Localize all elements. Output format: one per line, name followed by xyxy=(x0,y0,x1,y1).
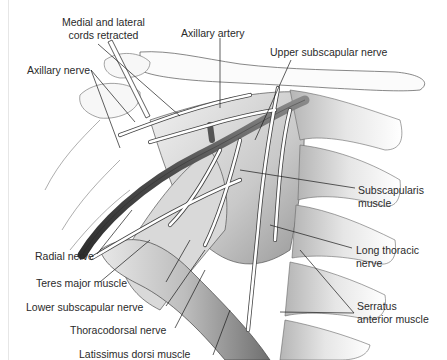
label-lower-subscapular-nerve: Lower subscapular nerve xyxy=(26,301,143,314)
label-upper-subscapular-nerve: Upper subscapular nerve xyxy=(270,46,387,59)
label-long-thoracic-line1: Long thoracic xyxy=(356,244,419,257)
label-axillary-nerve: Axillary nerve xyxy=(27,64,90,77)
label-latissimus-dorsi-muscle: Latissimus dorsi muscle xyxy=(79,348,190,360)
label-axillary-artery: Axillary artery xyxy=(181,27,245,40)
arm-outline xyxy=(45,120,130,250)
label-teres-major-muscle: Teres major muscle xyxy=(36,277,127,290)
label-subscapularis-muscle: Subscapularis muscle xyxy=(358,184,424,209)
label-subscapularis-line1: Subscapularis xyxy=(358,184,424,197)
label-serratus-anterior-muscle: Serratus anterior muscle xyxy=(357,300,429,325)
label-medial-lateral-cords-line1: Medial and lateral xyxy=(62,16,145,29)
label-serratus-line2: anterior muscle xyxy=(357,313,429,326)
artery-branch xyxy=(210,125,212,140)
humeral-head xyxy=(80,53,150,118)
label-radial-nerve: Radial nerve xyxy=(35,250,94,263)
label-long-thoracic-line2: nerve xyxy=(356,257,419,270)
label-thoracodorsal-nerve: Thoracodorsal nerve xyxy=(70,324,166,337)
label-serratus-line1: Serratus xyxy=(357,300,429,313)
label-medial-lateral-cords: Medial and lateral cords retracted xyxy=(62,16,145,41)
label-subscapularis-line2: muscle xyxy=(358,197,424,210)
label-medial-lateral-cords-line2: cords retracted xyxy=(62,29,145,42)
anatomy-figure: Medial and lateral cords retracted Axill… xyxy=(0,0,447,360)
label-long-thoracic-nerve: Long thoracic nerve xyxy=(356,244,419,269)
